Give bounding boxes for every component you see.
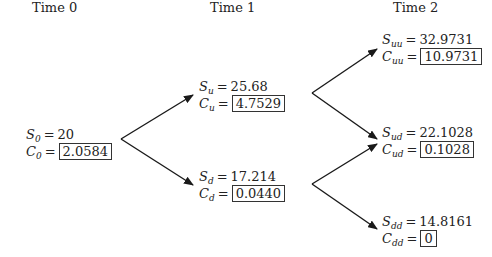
sd-value: 17.214	[231, 169, 277, 184]
suu-value: 32.9731	[419, 32, 473, 47]
edge-d-to-ud	[312, 144, 377, 184]
option-value-cu: Cu=4.7529	[199, 95, 285, 112]
option-value-cd: Cd=0.0440	[199, 185, 285, 202]
stock-price-sud: Sud=22.1028	[382, 124, 474, 141]
sdd-value: 14.8161	[419, 214, 473, 229]
cu-value-box: 4.7529	[232, 95, 286, 112]
edge-root-to-d	[121, 139, 193, 185]
s0-value: 20	[58, 127, 75, 142]
su-value: 25.68	[231, 79, 268, 94]
stock-price-su: Su=25.68	[199, 78, 285, 95]
node-time2-downdown: Sdd=14.8161 Cdd=0	[382, 213, 473, 247]
edge-u-to-ud	[312, 93, 377, 139]
c0-value-box: 2.0584	[59, 143, 113, 160]
cdd-value-box: 0	[420, 230, 436, 247]
cd-value-box: 0.0440	[232, 185, 286, 202]
edge-root-to-u	[121, 95, 193, 139]
node-time2-updown: Sud=22.1028 Cud=0.1028	[382, 124, 474, 158]
stock-price-s0: S0=20	[26, 126, 112, 143]
cuu-value-box: 10.9731	[420, 48, 482, 65]
stock-price-sdd: Sdd=14.8161	[382, 213, 473, 230]
edge-u-to-uu	[312, 49, 377, 93]
node-time2-upup: Suu=32.9731 Cuu=10.9731	[382, 31, 482, 65]
option-value-cdd: Cdd=0	[382, 230, 473, 247]
stock-price-sd: Sd=17.214	[199, 168, 285, 185]
option-value-c0: C0=2.0584	[26, 143, 112, 160]
option-value-cud: Cud=0.1028	[382, 141, 474, 158]
edge-d-to-dd	[312, 184, 377, 229]
node-time1-down: Sd=17.214 Cd=0.0440	[199, 168, 285, 202]
stock-price-suu: Suu=32.9731	[382, 31, 482, 48]
node-time1-up: Su=25.68 Cu=4.7529	[199, 78, 285, 112]
sud-value: 22.1028	[419, 125, 473, 140]
node-time0-root: S0=20 C0=2.0584	[26, 126, 112, 160]
option-value-cuu: Cuu=10.9731	[382, 48, 482, 65]
cud-value-box: 0.1028	[420, 141, 474, 158]
